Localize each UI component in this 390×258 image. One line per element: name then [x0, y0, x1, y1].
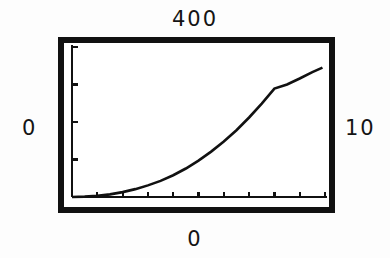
axis-label-top: 400 — [0, 9, 390, 30]
plot-svg — [64, 43, 329, 207]
axis-label-right: 10 — [345, 118, 376, 139]
plot-frame — [58, 37, 335, 213]
axis-label-left: 0 — [22, 118, 37, 139]
axis-label-bottom: 0 — [0, 229, 390, 250]
chart-screenshot: 400 0 10 0 — [0, 0, 390, 258]
plot-area — [64, 43, 329, 207]
data-curve — [72, 68, 322, 197]
tick-marks — [72, 47, 325, 197]
axis-lines — [72, 45, 327, 197]
curve-path — [72, 68, 322, 197]
